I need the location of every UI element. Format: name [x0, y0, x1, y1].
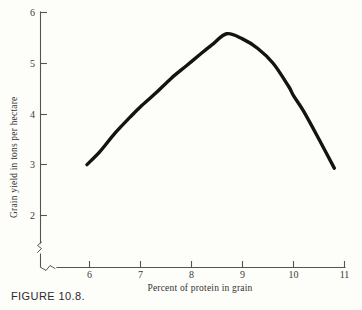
- figure-container: 6 5 4 3 2 Grain yield in tons per hectar…: [0, 0, 362, 310]
- y-tick-label-4: 4: [30, 109, 35, 120]
- chart-canvas: 6 5 4 3 2 Grain yield in tons per hectar…: [0, 0, 362, 310]
- y-tick-label-6: 6: [30, 7, 35, 18]
- x-tick-label-7: 7: [138, 269, 143, 280]
- y-axis-group: 6 5 4 3 2 Grain yield in tons per hectar…: [9, 7, 47, 267]
- x-tick-label-9: 9: [240, 269, 245, 280]
- y-tick-label-5: 5: [30, 58, 35, 69]
- y-tick-label-3: 3: [30, 159, 35, 170]
- y-axis-title: Grain yield in tons per hectare: [9, 97, 19, 218]
- x-axis-break-icon: [41, 266, 55, 271]
- x-tick-label-8: 8: [189, 269, 194, 280]
- figure-caption: FIGURE 10.8.: [11, 290, 85, 302]
- y-tick-label-2: 2: [30, 210, 35, 221]
- yield-response-curve: [87, 34, 334, 169]
- x-tick-label-6: 6: [87, 269, 92, 280]
- x-tick-label-11: 11: [340, 269, 350, 280]
- x-tick-label-10: 10: [289, 269, 299, 280]
- x-axis-group: 6 7 8 9 10 11 Percent of protein in grai…: [41, 261, 349, 293]
- x-axis-title: Percent of protein in grain: [147, 283, 252, 293]
- y-axis-break-icon: [38, 242, 42, 253]
- data-series-group: [87, 34, 334, 169]
